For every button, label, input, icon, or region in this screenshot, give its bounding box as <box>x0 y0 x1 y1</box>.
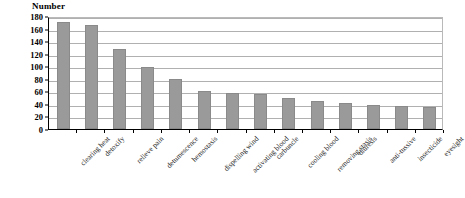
bar <box>339 103 352 129</box>
bar <box>367 105 380 129</box>
bar <box>282 98 295 129</box>
bar <box>423 107 436 129</box>
bar <box>395 106 408 129</box>
x-tick-label: cooling blood <box>306 135 340 169</box>
bar <box>169 79 182 129</box>
y-tick-label: 80 <box>35 76 44 85</box>
x-tick-mark <box>387 130 388 133</box>
y-axis: 020406080100120140160180 <box>0 17 48 130</box>
y-tick-label: 120 <box>30 50 43 59</box>
y-tick-label: 60 <box>35 88 44 97</box>
x-tick-mark <box>189 130 190 133</box>
y-tick-label: 0 <box>39 126 43 135</box>
x-tick-label: anti-tussive <box>388 135 417 164</box>
x-tick-mark <box>443 130 444 133</box>
x-tick-mark <box>330 130 331 133</box>
x-tick-mark <box>133 130 134 133</box>
x-tick-mark <box>161 130 162 133</box>
y-tick-label: 160 <box>30 25 43 34</box>
bar <box>198 91 211 129</box>
x-tick-mark <box>217 130 218 133</box>
bars-layer <box>49 18 442 129</box>
x-axis: clearing heatdetoxifyrelieve paindetumes… <box>48 130 443 198</box>
x-tick-mark <box>358 130 359 133</box>
x-tick-mark <box>104 130 105 133</box>
x-tick-mark <box>76 130 77 133</box>
x-tick-mark <box>302 130 303 133</box>
y-tick-label: 20 <box>35 113 44 122</box>
x-tick-label: eyesight <box>442 135 465 158</box>
bar <box>85 25 98 129</box>
bar <box>226 93 239 129</box>
x-tick-label: insecticide <box>416 135 444 163</box>
x-tick-mark <box>246 130 247 133</box>
bar <box>141 67 154 129</box>
y-tick-label: 180 <box>30 13 43 22</box>
y-tick-label: 40 <box>35 101 44 110</box>
bar <box>113 49 126 129</box>
x-tick-mark <box>415 130 416 133</box>
bar <box>57 22 70 129</box>
x-tick-label: diuresis <box>357 135 379 157</box>
y-tick-label: 100 <box>30 63 43 72</box>
x-tick-label: relieve pain <box>135 135 165 165</box>
y-tick-label: 140 <box>30 38 43 47</box>
bar <box>254 94 267 129</box>
plot-area <box>48 17 443 130</box>
bar <box>311 101 324 129</box>
y-axis-title: Number <box>32 1 65 11</box>
x-tick-mark <box>274 130 275 133</box>
